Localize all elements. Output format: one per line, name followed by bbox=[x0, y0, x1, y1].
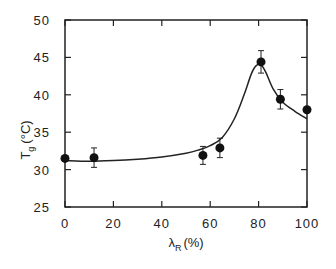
y-tick-label: 40 bbox=[34, 88, 50, 103]
data-point bbox=[303, 105, 312, 114]
x-tick-label: 80 bbox=[250, 216, 266, 231]
data-point bbox=[215, 143, 224, 152]
chart: 253035404550 020406080100 Tg(°C) λR(%) bbox=[0, 0, 336, 269]
data-point bbox=[257, 57, 266, 66]
x-tick-label: 40 bbox=[154, 216, 170, 231]
x-tick-label: 100 bbox=[295, 216, 320, 231]
data-point bbox=[198, 151, 207, 160]
y-tick-label: 35 bbox=[34, 125, 50, 140]
y-tick-label: 50 bbox=[34, 13, 50, 28]
data-point bbox=[90, 153, 99, 162]
fit-curve bbox=[65, 64, 307, 161]
x-tick-label: 20 bbox=[105, 216, 121, 231]
y-tick-label: 30 bbox=[34, 163, 50, 178]
x-tick-label: 60 bbox=[202, 216, 218, 231]
plot-frame bbox=[65, 20, 307, 207]
y-tick-label: 45 bbox=[34, 50, 50, 65]
x-axis-label: λR(%) bbox=[168, 235, 203, 253]
x-tick-label: 0 bbox=[61, 216, 69, 231]
y-axis-ticks: 253035404550 bbox=[34, 13, 307, 215]
data-point bbox=[61, 154, 70, 163]
x-axis-ticks: 020406080100 bbox=[61, 20, 319, 231]
y-tick-label: 25 bbox=[34, 200, 50, 215]
data-point bbox=[276, 95, 285, 104]
data-points bbox=[61, 51, 312, 168]
